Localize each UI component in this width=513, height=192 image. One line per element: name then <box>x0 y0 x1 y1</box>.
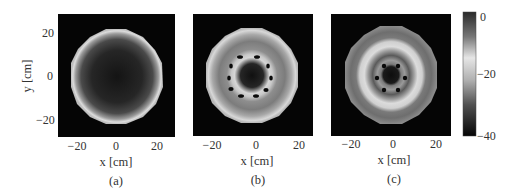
x-tick-20-c: 20 <box>430 137 442 151</box>
colorbar: 0 −20 −40 <box>463 10 496 143</box>
x-tick-20-b: 20 <box>293 138 305 152</box>
panel-label-c: (c) <box>387 172 401 186</box>
x-tick-0-b: 0 <box>253 138 259 152</box>
colorbar-gradient <box>463 12 476 136</box>
field-disk-b <box>206 28 298 123</box>
y-tick-neg20: −20 <box>36 113 55 127</box>
y-tick-0: 0 <box>47 69 53 83</box>
field-disk-c <box>345 26 437 124</box>
x-tick-20-a: 20 <box>151 139 163 153</box>
x-tick-neg20-c: −20 <box>342 137 361 151</box>
x-tick-neg20-b: −20 <box>203 138 222 152</box>
x-axis-label-c: x [cm] <box>378 153 411 167</box>
heatmap-panel-c <box>331 14 451 136</box>
x-axis-label-b: x [cm] <box>241 154 274 168</box>
x-axis-label-a: x [cm] <box>100 155 133 169</box>
y-tick-20: 20 <box>42 26 54 40</box>
figure: 0 −20 −40 20 0 −20 y [cm] −20 0 20 x [cm… <box>0 0 513 192</box>
x-tick-0-a: 0 <box>113 139 119 153</box>
panel-label-b: (b) <box>251 173 266 187</box>
x-tick-0-c: 0 <box>390 137 396 151</box>
colorbar-tick-neg40: −40 <box>477 129 496 143</box>
x-tick-neg20-a: −20 <box>68 139 87 153</box>
panel-label-a: (a) <box>109 174 123 188</box>
colorbar-tick-neg20: −20 <box>477 67 496 81</box>
y-axis-label: y [cm] <box>20 60 34 93</box>
heatmap-panel-a <box>58 14 175 137</box>
heatmap-panel-b <box>193 14 313 136</box>
colorbar-tick-0: 0 <box>480 10 486 24</box>
